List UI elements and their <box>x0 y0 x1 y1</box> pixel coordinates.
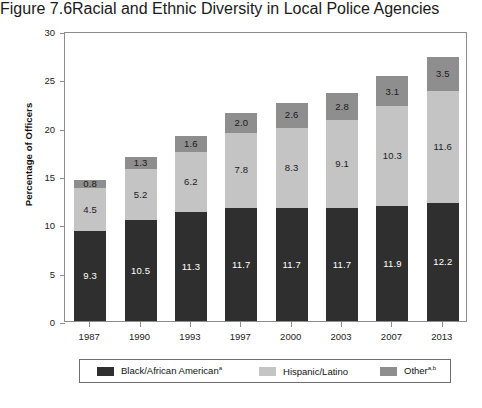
bar-value-label: 11.7 <box>282 260 301 270</box>
y-axis-tick-label: 0 <box>50 317 55 328</box>
x-axis-tick-label: 2003 <box>316 331 366 342</box>
bar-segment[interactable]: 3.5 <box>427 57 459 91</box>
bar-value-label: 4.5 <box>83 205 97 215</box>
x-axis-tick-label: 2007 <box>366 331 416 342</box>
x-axis-tick-mark <box>240 322 241 327</box>
legend-label-superscript: a,b <box>428 365 436 371</box>
bar-value-label: 9.3 <box>83 271 97 281</box>
plot-inner: 302520151050 9.34.50.810.55.21.311.36.21… <box>65 33 466 321</box>
bar-segment[interactable]: 11.3 <box>175 212 207 321</box>
bar-value-label: 3.1 <box>386 87 400 97</box>
bar-group[interactable]: 11.78.32.6 <box>276 103 308 321</box>
plot-frame: 302520151050 9.34.50.810.55.21.311.36.21… <box>64 32 467 322</box>
chart-canvas: Percentage of Officers 302520151050 9.34… <box>0 19 482 408</box>
x-axis-tick-label: 2013 <box>417 331 467 342</box>
bar-segment[interactable]: 2.6 <box>276 103 308 128</box>
bar-segment[interactable]: 11.7 <box>326 208 358 321</box>
bar-segment[interactable]: 3.1 <box>376 76 408 106</box>
bar-value-label: 2.6 <box>285 110 299 120</box>
bar-segment[interactable]: 7.8 <box>225 133 257 208</box>
legend-label: Othera,b <box>404 365 436 376</box>
figure-header: Figure 7.6 Racial and Ethnic Diversity i… <box>0 0 482 19</box>
bar-value-label: 1.6 <box>184 139 198 149</box>
y-axis-tick-label: 15 <box>44 172 55 183</box>
bar-segment[interactable]: 11.6 <box>427 91 459 203</box>
bar-segment[interactable]: 10.5 <box>125 220 157 322</box>
bar-group[interactable]: 11.77.82.0 <box>225 113 257 321</box>
y-axis-tick-label: 20 <box>44 124 55 135</box>
y-axis-tick-mark <box>60 323 65 324</box>
bar-segment[interactable]: 11.9 <box>376 206 408 321</box>
x-axis-tick-label: 1993 <box>165 331 215 342</box>
y-axis-tick-label: 10 <box>44 220 55 231</box>
y-axis-tick-label: 25 <box>44 75 55 86</box>
bars-layer: 9.34.50.810.55.21.311.36.21.611.77.82.01… <box>65 33 466 321</box>
bar-value-label: 0.8 <box>83 179 97 189</box>
page-title: Racial and Ethnic Diversity in Local Pol… <box>72 0 439 19</box>
bar-segment[interactable]: 10.3 <box>376 106 408 206</box>
bar-value-label: 12.2 <box>433 257 452 267</box>
bar-value-label: 2.8 <box>335 102 349 112</box>
bar-value-label: 11.9 <box>383 259 402 269</box>
x-axis-tick-mark <box>391 322 392 327</box>
x-axis-tick-mark <box>341 322 342 327</box>
bar-segment[interactable]: 2.0 <box>225 113 257 132</box>
x-axis-tick-mark <box>140 322 141 327</box>
bar-value-label: 3.5 <box>436 69 450 79</box>
bar-group[interactable]: 11.79.12.8 <box>326 93 358 321</box>
chart-legend: Black/African AmericanaHispanic/LatinoOt… <box>79 359 451 383</box>
bar-value-label: 1.3 <box>134 158 148 168</box>
bar-segment[interactable]: 8.3 <box>276 128 308 208</box>
bar-value-label: 2.0 <box>234 118 248 128</box>
bar-segment[interactable]: 9.3 <box>74 231 106 321</box>
figure-number-badge: Figure 7.6 <box>0 0 72 19</box>
bar-segment[interactable]: 1.6 <box>175 136 207 151</box>
x-axis-tick-mark <box>442 322 443 327</box>
y-axis-tick-label: 30 <box>44 27 55 38</box>
bar-value-label: 8.3 <box>285 163 299 173</box>
y-axis-title: Percentage of Officers <box>23 65 34 245</box>
bar-value-label: 10.3 <box>383 151 402 161</box>
bar-segment[interactable]: 0.8 <box>74 180 106 188</box>
legend-item[interactable]: Black/African Americana <box>97 365 222 376</box>
bar-segment[interactable]: 12.2 <box>427 203 459 321</box>
legend-swatch <box>97 367 114 376</box>
x-axis-tick-mark <box>89 322 90 327</box>
legend-label-superscript: a <box>219 365 222 371</box>
legend-label: Black/African Americana <box>121 365 222 376</box>
bar-value-label: 11.7 <box>232 260 251 270</box>
bar-value-label: 11.7 <box>333 260 352 270</box>
bar-value-label: 9.1 <box>335 159 349 169</box>
bar-value-label: 5.2 <box>134 190 148 200</box>
bar-segment[interactable]: 6.2 <box>175 152 207 212</box>
bar-value-label: 6.2 <box>184 177 198 187</box>
legend-swatch <box>380 367 397 376</box>
bar-group[interactable]: 11.910.33.1 <box>376 76 408 321</box>
bar-segment[interactable]: 2.8 <box>326 93 358 120</box>
legend-swatch <box>259 367 276 376</box>
bar-segment[interactable]: 9.1 <box>326 120 358 208</box>
x-axis-tick-label: 1987 <box>64 331 114 342</box>
x-axis-tick-mark <box>291 322 292 327</box>
x-axis-tick-mark <box>190 322 191 327</box>
bar-segment[interactable]: 1.3 <box>125 157 157 170</box>
bar-group[interactable]: 12.211.63.5 <box>427 57 459 321</box>
bar-group[interactable]: 10.55.21.3 <box>125 157 157 321</box>
bar-group[interactable]: 9.34.50.8 <box>74 180 106 321</box>
bar-value-label: 10.5 <box>131 266 150 276</box>
legend-item[interactable]: Othera,b <box>380 365 436 376</box>
bar-segment[interactable]: 5.2 <box>125 169 157 219</box>
y-axis-tick-label: 5 <box>50 269 55 280</box>
bar-value-label: 11.6 <box>434 142 453 152</box>
bar-segment[interactable]: 11.7 <box>276 208 308 321</box>
bar-segment[interactable]: 11.7 <box>225 208 257 321</box>
x-axis-tick-label: 2000 <box>266 331 316 342</box>
x-axis-tick-label: 1990 <box>115 331 165 342</box>
bar-segment[interactable]: 4.5 <box>74 188 106 232</box>
legend-item[interactable]: Hispanic/Latino <box>259 366 348 377</box>
legend-label: Hispanic/Latino <box>283 366 348 377</box>
x-axis-tick-label: 1997 <box>215 331 265 342</box>
bar-value-label: 7.8 <box>234 165 248 175</box>
bar-group[interactable]: 11.36.21.6 <box>175 136 207 321</box>
bar-value-label: 11.3 <box>182 262 201 272</box>
